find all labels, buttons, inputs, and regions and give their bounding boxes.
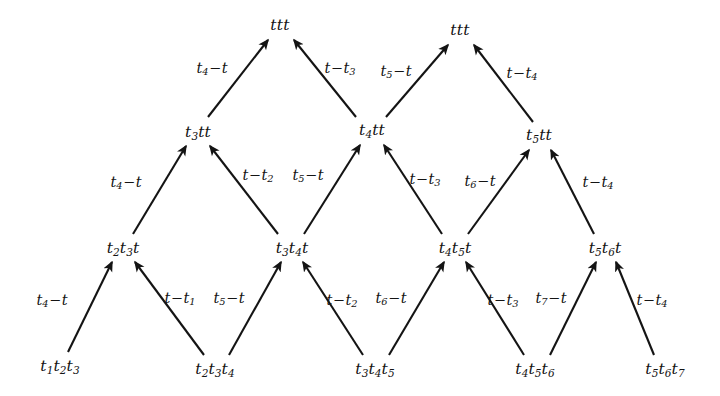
edge-weight-label: t7−t (535, 291, 566, 308)
lattice-node: t2t3t4 (195, 362, 234, 378)
edge-weight-label: t5−t (292, 168, 323, 185)
transition-arrow (304, 145, 360, 234)
transition-arrow (384, 145, 442, 234)
edge-weight-label: t4−t (110, 175, 141, 192)
transition-arrow (551, 150, 594, 234)
lattice-node: t3t4t5 (355, 362, 394, 378)
edge-weight-label: t−t3 (324, 61, 355, 78)
lattice-node: t4tt (359, 123, 385, 139)
transition-arrow (386, 45, 448, 117)
edge-weight-label: t−t3 (487, 293, 518, 310)
edge-weight-label: t5−t (213, 291, 244, 308)
transition-arrow (210, 146, 278, 234)
lattice-node: t3t4t (276, 241, 309, 257)
edge-weight-label: t5−t (380, 64, 411, 81)
edge-weight-label: t−t1 (164, 291, 195, 308)
lattice-node: t4t5t6 (515, 362, 554, 378)
lattice-diagram-canvas: ttttttt3ttt4ttt5ttt2t3tt3t4tt4t5tt5t6tt1… (0, 0, 720, 396)
transition-arrow (474, 45, 533, 122)
transition-arrow (229, 262, 281, 355)
lattice-node: ttt (270, 18, 289, 34)
edge-weight-label: t−t2 (242, 168, 273, 185)
edge-weight-label: t−t4 (636, 293, 667, 310)
edge-weight-label: t−t4 (506, 66, 537, 83)
lattice-node: t4t5t (439, 241, 472, 257)
lattice-node: t5tt (526, 128, 552, 144)
edge-weight-label: t6−t (464, 174, 495, 191)
lattice-node: t3tt (185, 125, 211, 141)
transition-arrow (135, 262, 204, 355)
edge-lines-group (68, 40, 654, 355)
edge-weight-label: t−t4 (582, 175, 613, 192)
transition-arrow (389, 262, 444, 355)
transition-arrow (550, 262, 596, 355)
transition-arrow (208, 40, 268, 117)
transition-arrow (294, 40, 356, 117)
lattice-node: t5t6t7 (645, 362, 684, 378)
lattice-node: t1t2t3 (40, 359, 79, 375)
edge-arrows-layer (0, 0, 720, 396)
transition-arrow (68, 262, 112, 352)
lattice-node: ttt (450, 23, 469, 39)
edge-weight-label: t4−t (36, 293, 67, 310)
edge-weight-label: t4−t (196, 61, 227, 78)
edge-weight-label: t6−t (375, 291, 406, 308)
lattice-node: t5t6t (589, 241, 622, 257)
lattice-node: t2t3t (107, 241, 140, 257)
edge-weight-label: t−t3 (409, 172, 440, 189)
edge-weight-label: t−t2 (326, 293, 357, 310)
transition-arrow (468, 150, 529, 234)
